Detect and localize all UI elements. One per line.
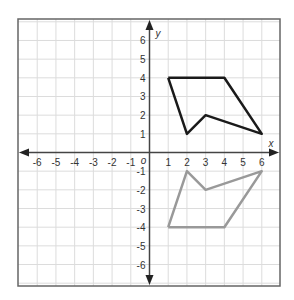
y-tick-label: -6 xyxy=(137,260,146,271)
x-tick-label: -1 xyxy=(126,157,135,168)
y-tick-label: 5 xyxy=(140,54,146,65)
x-tick-label: -5 xyxy=(51,157,60,168)
y-tick-label: -2 xyxy=(137,185,146,196)
x-axis-label: x xyxy=(268,138,275,149)
x-tick-label: -2 xyxy=(108,157,117,168)
x-tick-label: -3 xyxy=(89,157,98,168)
x-tick-label: 3 xyxy=(203,157,209,168)
y-axis-label: y xyxy=(155,28,162,39)
original-figure xyxy=(168,78,262,134)
x-axis-right-arrow-icon xyxy=(269,149,279,157)
x-tick-label: 4 xyxy=(222,157,228,168)
y-tick-label: -3 xyxy=(137,204,146,215)
x-axis-left-arrow-icon xyxy=(19,149,29,157)
y-tick-label: -4 xyxy=(137,222,146,233)
tick-labels: -6-5-4-3-2-1123456654321-1-2-3-4-5-6yxo xyxy=(33,28,275,271)
y-tick-label: 1 xyxy=(140,129,146,140)
origin-label: o xyxy=(141,155,147,166)
x-tick-label: 5 xyxy=(240,157,246,168)
y-tick-label: 4 xyxy=(140,73,146,84)
coordinate-plane: -6-5-4-3-2-1123456654321-1-2-3-4-5-6yxo xyxy=(0,0,294,300)
x-tick-label: 2 xyxy=(184,157,190,168)
y-tick-label: -1 xyxy=(137,166,146,177)
y-tick-label: 6 xyxy=(140,35,146,46)
y-tick-label: 2 xyxy=(140,110,146,121)
axes xyxy=(19,20,279,285)
y-tick-label: 3 xyxy=(140,91,146,102)
reflected-figure xyxy=(168,171,262,227)
x-tick-label: 6 xyxy=(259,157,265,168)
y-tick-label: -5 xyxy=(137,241,146,252)
x-tick-label: 1 xyxy=(165,157,171,168)
x-tick-label: -6 xyxy=(33,157,42,168)
x-tick-label: -4 xyxy=(70,157,79,168)
